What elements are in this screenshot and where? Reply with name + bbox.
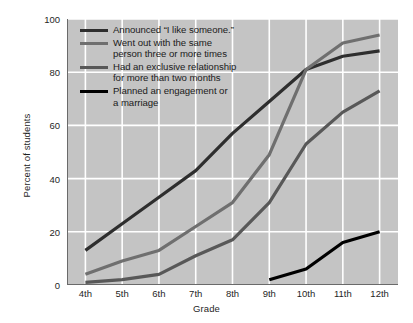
x-tick-label: 7th	[189, 288, 202, 299]
y-axis-ticks: 020406080100	[0, 0, 60, 323]
y-tick-label: 80	[20, 67, 60, 78]
x-tick-label: 10th	[297, 288, 316, 299]
legend-item: Announced “I like someone.”	[80, 24, 310, 36]
chart-legend: Announced “I like someone.”Went out with…	[80, 24, 310, 109]
x-axis-label: Grade	[0, 303, 413, 314]
x-tick-label: 9th	[263, 288, 276, 299]
legend-swatch-icon	[80, 66, 108, 69]
x-tick-label: 4th	[79, 288, 92, 299]
x-tick-label: 5th	[116, 288, 129, 299]
legend-swatch-icon	[80, 90, 108, 93]
series-line-3	[269, 232, 379, 280]
legend-swatch-icon	[80, 42, 108, 45]
legend-label: Went out with the sameperson three or mo…	[113, 37, 227, 60]
legend-label: Had an exclusive relationshipfor more th…	[113, 61, 236, 84]
legend-label: Planned an engagement ora marriage	[113, 85, 228, 108]
x-tick-label: 11th	[334, 288, 352, 299]
legend-item: Had an exclusive relationshipfor more th…	[80, 61, 310, 84]
legend-label: Announced “I like someone.”	[113, 24, 234, 36]
line-chart: Percent of students Grade 020406080100 4…	[0, 0, 413, 323]
y-tick-label: 100	[20, 14, 60, 25]
y-tick-label: 40	[20, 173, 60, 184]
y-tick-label: 60	[20, 120, 60, 131]
x-tick-label: 8th	[226, 288, 239, 299]
legend-item: Planned an engagement ora marriage	[80, 85, 310, 108]
y-tick-label: 20	[20, 226, 60, 237]
legend-item: Went out with the sameperson three or mo…	[80, 37, 310, 60]
x-tick-label: 12th	[370, 288, 389, 299]
y-tick-label: 0	[20, 280, 60, 291]
x-tick-label: 6th	[152, 288, 165, 299]
legend-swatch-icon	[80, 29, 108, 32]
